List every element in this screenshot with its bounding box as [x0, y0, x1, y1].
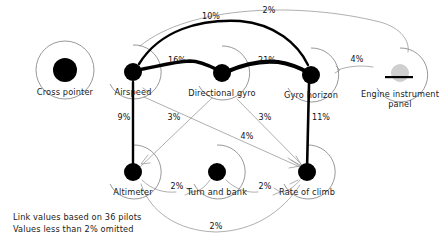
node-label-gyro-horizon: Gyro horizon: [284, 90, 338, 100]
link-diagram-figure: Cross pointer Airspeed Directional gyro …: [0, 0, 448, 248]
link-value-directional-gyro-altimeter: 3%: [168, 113, 181, 122]
link-value-airspeed-engine-panel: 2%: [263, 6, 276, 15]
link-value-gyro-horizon-rate-of-climb: 11%: [312, 113, 330, 122]
link-value-airspeed-directional-gyro: 16%: [168, 56, 186, 65]
node-label-turn-and-bank: Turn and bank: [186, 187, 247, 197]
node-dot-engine-panel[interactable]: [391, 64, 409, 82]
link-value-directional-gyro-rate-of-climb: 3%: [259, 113, 272, 122]
diagram-canvas: Cross pointer Airspeed Directional gyro …: [0, 0, 448, 248]
node-dot-cross-pointer[interactable]: [53, 58, 77, 82]
link-airspeed-rate-of-climb: [144, 97, 300, 167]
node-dot-airspeed[interactable]: [124, 63, 142, 81]
node-bar-engine-panel: [385, 76, 413, 78]
link-value-altimeter-rate-of-climb: 2%: [210, 222, 223, 231]
node-label-directional-gyro: Directional gyro: [188, 88, 256, 98]
node-label-engine-panel-line2: panel: [388, 99, 411, 109]
caption-line-1: Link values based on 36 pilots: [13, 212, 141, 222]
node-dot-directional-gyro[interactable]: [213, 64, 231, 82]
node-label-rate-of-climb: Rate of climb: [279, 187, 335, 197]
link-value-turn-and-bank-rate-of-climb: 2%: [259, 182, 272, 191]
node-label-cross-pointer: Cross pointer: [37, 87, 94, 97]
node-ring-layer: [36, 41, 428, 199]
caption: Link values based on 36 pilots Values le…: [13, 212, 141, 234]
link-value-airspeed-altimeter: 9%: [118, 113, 131, 122]
link-directional-gyro-altimeter-arrow: [141, 155, 150, 164]
node-dot-turn-and-bank[interactable]: [208, 163, 226, 181]
link-value-airspeed-gyro-horizon: 10%: [202, 12, 220, 21]
node-label-layer: Cross pointer Airspeed Directional gyro …: [37, 87, 440, 197]
caption-line-2: Values less than 2% omitted: [13, 224, 134, 234]
link-value-directional-gyro-gyro-horizon: 21%: [258, 56, 276, 65]
link-gyro-horizon-engine-panel: [338, 66, 373, 70]
link-value-altimeter-turn-and-bank: 2%: [171, 182, 184, 191]
node-dot-rate-of-climb[interactable]: [298, 163, 316, 181]
node-dot-layer: [53, 58, 413, 181]
link-value-layer: 16% 21% 10% 2% 4% 9% 11% 4% 3% 3% 2% 2% …: [118, 6, 364, 231]
node-dot-altimeter[interactable]: [124, 163, 142, 181]
node-dot-gyro-horizon[interactable]: [302, 66, 320, 84]
link-airspeed-gyro-horizon: [139, 21, 308, 65]
link-value-airspeed-rate-of-climb: 4%: [241, 132, 254, 141]
link-directional-gyro-rate-of-climb-arrow: [291, 156, 302, 166]
link-value-gyro-horizon-engine-panel: 4%: [351, 55, 364, 64]
node-label-engine-panel: Engine instrument: [361, 89, 440, 99]
link-directional-gyro-altimeter: [140, 98, 212, 167]
node-label-altimeter: Altimeter: [113, 187, 153, 197]
node-label-airspeed: Airspeed: [114, 87, 151, 97]
